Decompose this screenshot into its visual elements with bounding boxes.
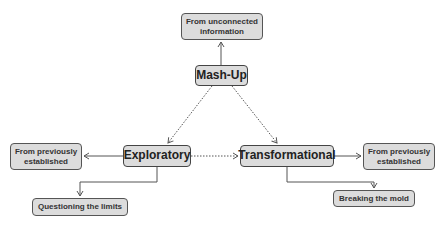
edge-transformational-to-breaking	[287, 167, 374, 188]
node-exploratory: Exploratory	[123, 145, 191, 167]
node-exploratory-from-previously-established: From previously established	[10, 143, 82, 170]
node-questioning-the-limits: Questioning the limits	[32, 198, 128, 216]
node-transformational: Transformational	[240, 145, 334, 167]
node-mash-up: Mash-Up	[195, 65, 248, 86]
node-breaking-the-mold: Breaking the mold	[333, 190, 415, 207]
edge-mashup-to-transformational	[232, 86, 277, 143]
edge-exploratory-to-questioning	[80, 167, 157, 196]
node-transformational-from-previously-established: From previously established	[363, 143, 435, 170]
edge-mashup-to-exploratory	[168, 86, 212, 143]
node-from-unconnected-information: From unconnected information	[181, 13, 263, 40]
